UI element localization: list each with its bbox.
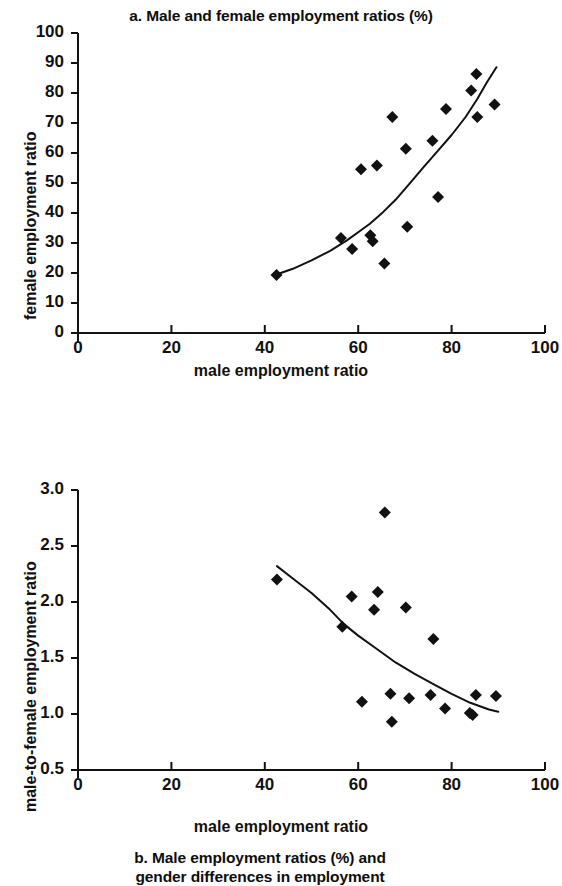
x-tick-label: 60 xyxy=(318,338,398,358)
y-tick-label: 1.5 xyxy=(0,647,64,667)
x-tick-label: 40 xyxy=(225,775,305,795)
data-point xyxy=(271,574,283,586)
y-tick-label: 40 xyxy=(0,202,64,222)
data-point xyxy=(372,586,384,598)
data-point xyxy=(427,633,439,645)
data-point xyxy=(426,135,438,147)
data-point xyxy=(403,692,415,704)
y-tick-label: 30 xyxy=(0,232,64,252)
y-tick-label: 50 xyxy=(0,172,64,192)
y-tick-label: 100 xyxy=(0,22,64,42)
y-tick-label: 10 xyxy=(0,292,64,312)
y-tick-label: 3.0 xyxy=(0,479,64,499)
data-point xyxy=(336,621,348,633)
x-tick-label: 60 xyxy=(318,775,398,795)
data-point xyxy=(489,98,501,110)
data-point xyxy=(401,221,413,233)
y-tick-label: 1.0 xyxy=(0,703,64,723)
y-tick-label: 20 xyxy=(0,262,64,282)
y-tick-label: 70 xyxy=(0,112,64,132)
y-tick-label: 2.5 xyxy=(0,535,64,555)
data-point xyxy=(386,716,398,728)
data-point xyxy=(470,68,482,80)
chart-panel-a: a. Male and female employment ratios (%)… xyxy=(0,0,562,420)
x-tick-label: 0 xyxy=(38,775,118,795)
data-point xyxy=(490,690,502,702)
chart-b-title-line-1: b. Male employment ratios (%) and xyxy=(0,848,520,867)
data-point xyxy=(346,243,358,255)
x-tick-label: 20 xyxy=(131,775,211,795)
x-tick-label: 100 xyxy=(505,775,562,795)
data-point xyxy=(368,604,380,616)
data-point xyxy=(384,688,396,700)
data-point xyxy=(346,590,358,602)
x-tick-label: 40 xyxy=(225,338,305,358)
data-point xyxy=(356,696,368,708)
chart-b-title-line-2: gender differences in employment xyxy=(0,867,520,886)
data-point xyxy=(432,191,444,203)
data-point xyxy=(400,143,412,155)
data-point xyxy=(439,702,451,714)
data-point xyxy=(378,257,390,269)
y-tick-label: 90 xyxy=(0,52,64,72)
x-tick-label: 100 xyxy=(505,338,562,358)
chart-a-x-axis-title: male employment ratio xyxy=(0,362,562,380)
x-tick-label: 0 xyxy=(38,338,118,358)
y-tick-label: 80 xyxy=(0,82,64,102)
data-point xyxy=(400,602,412,614)
trend-line xyxy=(276,67,496,274)
x-tick-label: 80 xyxy=(412,775,492,795)
data-point xyxy=(355,163,367,175)
x-tick-label: 20 xyxy=(131,338,211,358)
data-point xyxy=(386,111,398,123)
data-point xyxy=(465,85,477,97)
y-tick-label: 2.0 xyxy=(0,591,64,611)
data-point xyxy=(425,689,437,701)
chart-b-title: b. Male employment ratios (%) and gender… xyxy=(0,848,520,886)
chart-panel-b: b. Male employment ratios (%) and gender… xyxy=(0,420,562,842)
data-point xyxy=(470,689,482,701)
x-tick-label: 80 xyxy=(412,338,492,358)
trend-line xyxy=(277,566,498,712)
data-point xyxy=(471,111,483,123)
y-tick-label: 60 xyxy=(0,142,64,162)
data-point xyxy=(440,103,452,115)
data-point xyxy=(379,506,391,518)
data-point xyxy=(371,160,383,172)
data-point xyxy=(270,269,282,281)
chart-b-x-axis-title: male employment ratio xyxy=(0,818,562,836)
axis-lines xyxy=(78,490,545,770)
